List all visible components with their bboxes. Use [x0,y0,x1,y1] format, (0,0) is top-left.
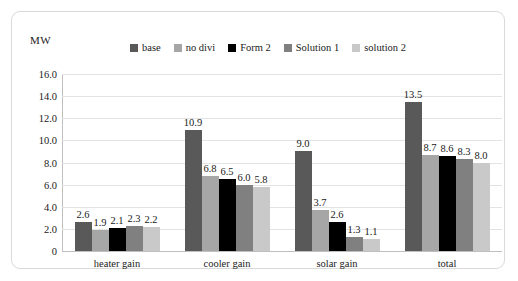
bar-group-bars: 2.61.92.12.32.2 [62,74,172,251]
bar-value-label: 2.3 [127,213,140,224]
bar-value-label: 1.1 [364,226,377,237]
x-axis-category-label: cooler gain [172,258,282,269]
y-axis-tick-label: 4.0 [17,201,57,212]
bar-slot: 1.1 [363,74,380,251]
bar-slot: 8.3 [456,74,473,251]
bar[interactable] [236,185,253,251]
bar-value-label: 6.8 [203,163,216,174]
legend-item-label: Form 2 [240,42,271,53]
bar-slot: 8.6 [439,74,456,251]
legend-item-label: no divi [186,42,215,53]
bar-group-bars: 9.03.72.61.31.1 [282,74,392,251]
bar-group-bars: 10.96.86.56.05.8 [172,74,282,251]
bar-value-label: 1.3 [347,224,360,235]
legend-swatch-icon [284,44,292,52]
bar[interactable] [92,230,109,251]
bar-value-label: 2.6 [330,209,343,220]
bar-group: 10.96.86.56.05.8 [172,74,282,251]
bar-slot: 13.5 [405,74,422,251]
bar[interactable] [253,187,270,251]
bar[interactable] [219,179,236,251]
bar-value-label: 2.6 [76,209,89,220]
legend-item-label: solution 2 [364,42,406,53]
bar[interactable] [312,210,329,251]
bar-slot: 5.8 [253,74,270,251]
bar-group: 9.03.72.61.31.1 [282,74,392,251]
chart-frame: MW baseno diviForm 2Solution 1solution 2… [11,11,505,269]
bar-value-label: 1.9 [93,217,106,228]
legend-item-solution-1[interactable]: Solution 1 [284,42,339,53]
bar-slot: 2.6 [75,74,92,251]
y-axis-tick-label: 0 [17,246,57,257]
bar[interactable] [405,102,422,251]
bar-slot: 6.0 [236,74,253,251]
bar-slot: 6.5 [219,74,236,251]
bar-value-label: 8.0 [474,150,487,161]
bar[interactable] [439,156,456,251]
bar-slot: 3.7 [312,74,329,251]
y-axis-tick-label: 8.0 [17,157,57,168]
bar-group-bars: 13.58.78.68.38.0 [392,74,502,251]
bar-group: 2.61.92.12.32.2 [62,74,172,251]
bar-value-label: 6.5 [220,166,233,177]
bar[interactable] [143,227,160,251]
x-axis-category-label: solar gain [282,258,392,269]
bar-value-label: 2.2 [144,214,157,225]
legend-swatch-icon [228,44,236,52]
legend-item-form-2[interactable]: Form 2 [228,42,271,53]
x-axis-category-label: total [392,258,502,269]
bar-slot: 1.9 [92,74,109,251]
bar[interactable] [75,222,92,251]
bar-slot: 10.9 [185,74,202,251]
bar-slot: 8.0 [473,74,490,251]
bar[interactable] [109,228,126,251]
bar-value-label: 9.0 [296,138,309,149]
bar-value-label: 13.5 [404,89,422,100]
x-axis-category-label: heater gain [62,258,172,269]
bar[interactable] [329,222,346,251]
bar-value-label: 8.3 [457,146,470,157]
bar-value-label: 3.7 [313,197,326,208]
bar[interactable] [185,130,202,251]
y-axis-unit-label: MW [30,34,51,46]
legend-swatch-icon [174,44,182,52]
chart-legend: baseno diviForm 2Solution 1solution 2 [130,42,406,53]
legend-swatch-icon [130,44,138,52]
y-axis-tick-labels: 16.014.012.010.08.06.04.02.00 [12,74,57,251]
bar-slot: 6.8 [202,74,219,251]
bar-value-label: 8.6 [440,143,453,154]
bar-slot: 2.6 [329,74,346,251]
gridline [62,251,502,252]
x-axis-category-labels: heater gaincooler gainsolar gaintotal [62,258,502,269]
bar-value-label: 6.0 [237,172,250,183]
legend-item-no-divi[interactable]: no divi [174,42,215,53]
bar[interactable] [295,151,312,251]
bar-groups: 2.61.92.12.32.210.96.86.56.05.89.03.72.6… [62,74,502,251]
legend-item-solution-2[interactable]: solution 2 [352,42,406,53]
bar-slot: 9.0 [295,74,312,251]
bar[interactable] [202,176,219,251]
y-axis-tick-label: 2.0 [17,223,57,234]
bar-value-label: 5.8 [254,174,267,185]
bar[interactable] [422,155,439,251]
y-axis-tick-label: 10.0 [17,135,57,146]
bar[interactable] [346,237,363,251]
legend-item-label: Solution 1 [296,42,339,53]
bar[interactable] [126,226,143,251]
y-axis-tick-label: 16.0 [17,69,57,80]
legend-item-base[interactable]: base [130,42,161,53]
bar-slot: 2.1 [109,74,126,251]
y-axis-tick-label: 6.0 [17,179,57,190]
bar-group: 13.58.78.68.38.0 [392,74,502,251]
legend-swatch-icon [352,44,360,52]
legend-item-label: base [142,42,161,53]
bar-slot: 2.3 [126,74,143,251]
bar-slot: 2.2 [143,74,160,251]
bar[interactable] [456,159,473,251]
y-axis-tick-label: 14.0 [17,91,57,102]
bar-value-label: 2.1 [110,215,123,226]
bar-value-label: 8.7 [423,142,436,153]
bar[interactable] [473,163,490,252]
bar-slot: 8.7 [422,74,439,251]
bar[interactable] [363,239,380,251]
